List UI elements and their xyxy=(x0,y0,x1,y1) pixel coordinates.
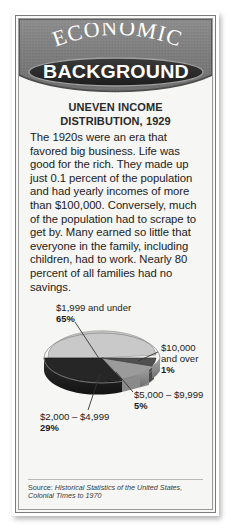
pie-label-10000-line1: $10,000 xyxy=(161,342,196,353)
article-title-line2: DISTRIBUTION, 1929 xyxy=(60,115,171,127)
source-title-line2: Colonial Times to 1970 xyxy=(28,491,101,500)
page-root: ECONOMIC BACKGRO xyxy=(0,0,231,529)
income-distribution-pie-chart: $1,999 and under 65% $10,000 and over 1%… xyxy=(30,300,213,455)
card-inner-border: ECONOMIC BACKGRO xyxy=(18,18,213,510)
pie-label-5000-9999-name: $5,000 – $9,999 xyxy=(134,389,203,400)
article-body-text: The 1920s were an era that favored big b… xyxy=(30,131,201,294)
source-citation: Source: Historical Statistics of the Uni… xyxy=(28,479,203,501)
card-header: ECONOMIC BACKGRO xyxy=(19,19,212,97)
pie-label-under-2000-name: $1,999 and under xyxy=(56,302,131,313)
pie-label-under-2000-value: 65% xyxy=(56,313,75,324)
pie-label-2000-4999-name: $2,000 – $4,999 xyxy=(40,411,109,422)
svg-text:BACKGROUND: BACKGROUND xyxy=(43,62,189,82)
pie-label-2000-4999: $2,000 – $4,999 29% xyxy=(40,411,109,433)
article-title-line1: UNEVEN INCOME xyxy=(68,101,162,113)
pie-label-10000-line2: and over xyxy=(161,353,198,364)
article-title: UNEVEN INCOME DISTRIBUTION, 1929 xyxy=(30,101,201,128)
economic-background-card: ECONOMIC BACKGRO xyxy=(15,15,216,513)
pie-label-5000-9999-value: 5% xyxy=(134,400,148,411)
pie-label-under-2000: $1,999 and under 65% xyxy=(56,302,131,324)
card-body: UNEVEN INCOME DISTRIBUTION, 1929 The 192… xyxy=(19,93,212,509)
pie-label-10000-value: 1% xyxy=(161,364,175,375)
pie-label-2000-4999-value: 29% xyxy=(40,422,59,433)
pie-label-5000-9999: $5,000 – $9,999 5% xyxy=(134,389,203,411)
pie-label-10000-and-over: $10,000 and over 1% xyxy=(161,342,198,375)
header-oval-background: BACKGROUND xyxy=(27,57,205,91)
